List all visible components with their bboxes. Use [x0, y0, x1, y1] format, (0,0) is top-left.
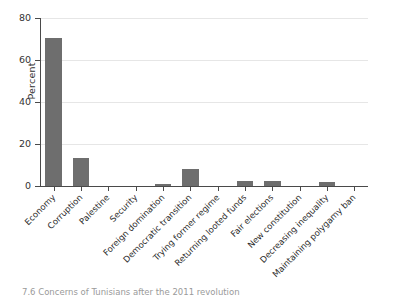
x-tick-mark: [245, 187, 246, 191]
figure-caption: 7.6 Concerns of Tunisians after the 2011…: [22, 287, 240, 297]
gridline: [40, 60, 368, 61]
x-tick-mark: [108, 187, 109, 191]
gridline: [40, 144, 368, 145]
y-axis-line: [40, 18, 41, 187]
x-tick-mark: [190, 187, 191, 191]
x-tick-mark: [218, 187, 219, 191]
x-tick-mark: [163, 187, 164, 191]
x-tick-mark: [272, 187, 273, 191]
y-tick-label: 20: [0, 139, 31, 149]
x-tick-mark: [81, 187, 82, 191]
y-tick-label: 40: [0, 97, 31, 107]
bar: [73, 158, 90, 186]
bar: [45, 38, 62, 186]
figure: Percent 80 60 40 20 0 EconomyCorruptionP…: [0, 0, 402, 297]
bar: [182, 169, 199, 186]
x-tick-mark: [327, 187, 328, 191]
x-axis-line: [40, 186, 368, 187]
x-tick-mark: [136, 187, 137, 191]
y-tick-label: 80: [0, 13, 31, 23]
gridline: [40, 18, 368, 19]
x-tick-mark: [354, 187, 355, 191]
y-tick-label: 60: [0, 55, 31, 65]
plot-area: [40, 18, 368, 186]
gridline: [40, 102, 368, 103]
x-tick-mark: [54, 187, 55, 191]
x-tick-mark: [300, 187, 301, 191]
y-tick-label: 0: [0, 181, 31, 191]
